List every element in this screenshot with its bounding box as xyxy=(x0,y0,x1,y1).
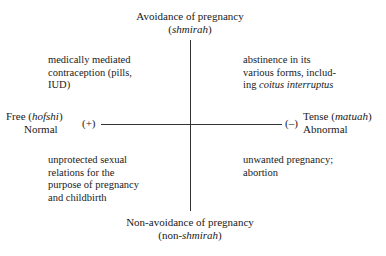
quadrant-top-right: abstinence in its various forms, includ-… xyxy=(243,54,336,92)
quadrant-bottom-right: unwanted pregnancy; abortion xyxy=(243,154,333,179)
horizontal-axis-line xyxy=(101,124,282,125)
left-axis-sign: (+) xyxy=(82,117,96,130)
bottom-axis-label: Non-avoidance of pregnancy (non-shmirah) xyxy=(110,216,270,242)
quadrant-bottom-left: unprotected sexual relations for the pur… xyxy=(48,154,139,204)
right-axis-sign: (–) xyxy=(285,117,298,130)
left-axis-label: Free (hofshi) Normal xyxy=(6,110,63,136)
top-axis-label: Avoidance of pregnancy (shmirah) xyxy=(120,10,260,36)
quadrant-top-left: medically mediated contraception (pills,… xyxy=(48,54,132,92)
right-axis-label: Tense (matuah) Abnormal xyxy=(303,110,372,136)
vertical-axis-line xyxy=(190,40,191,211)
